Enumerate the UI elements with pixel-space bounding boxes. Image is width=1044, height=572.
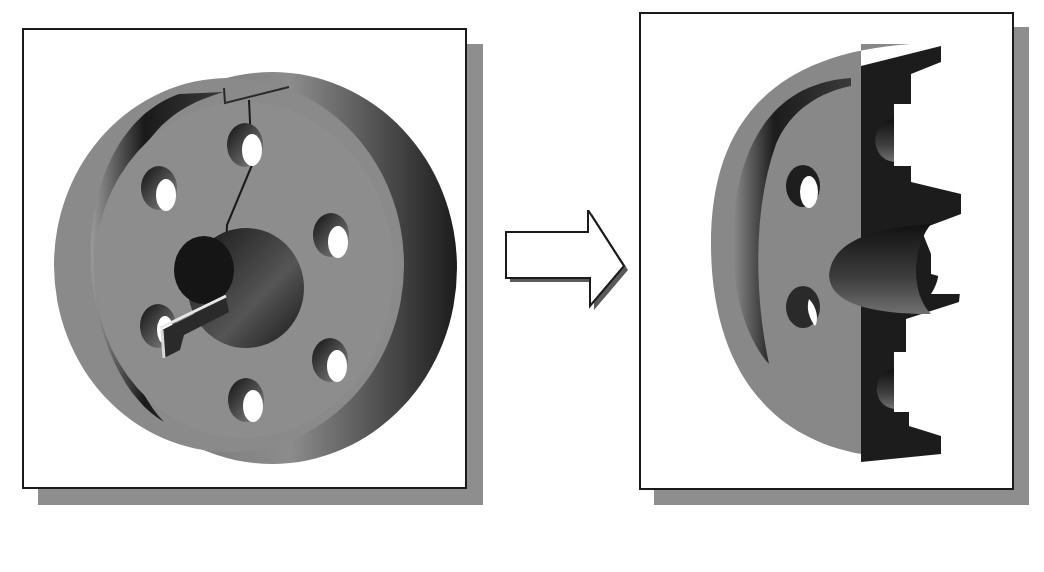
keyway-edge xyxy=(162,330,164,358)
gap-top xyxy=(913,76,981,164)
transform-arrow-icon xyxy=(504,210,634,312)
bore-front xyxy=(174,236,234,304)
right-panel-frame: Half section view of the same part xyxy=(639,12,1014,490)
gap-bottom xyxy=(909,354,981,410)
bolt-hole-upper-through xyxy=(800,176,818,208)
gap-mid xyxy=(931,254,981,294)
section-view-drawing xyxy=(641,14,1012,488)
left-panel-frame: Full 3D part: flange with six bolt holes… xyxy=(22,28,467,489)
full-part-drawing xyxy=(24,30,465,487)
